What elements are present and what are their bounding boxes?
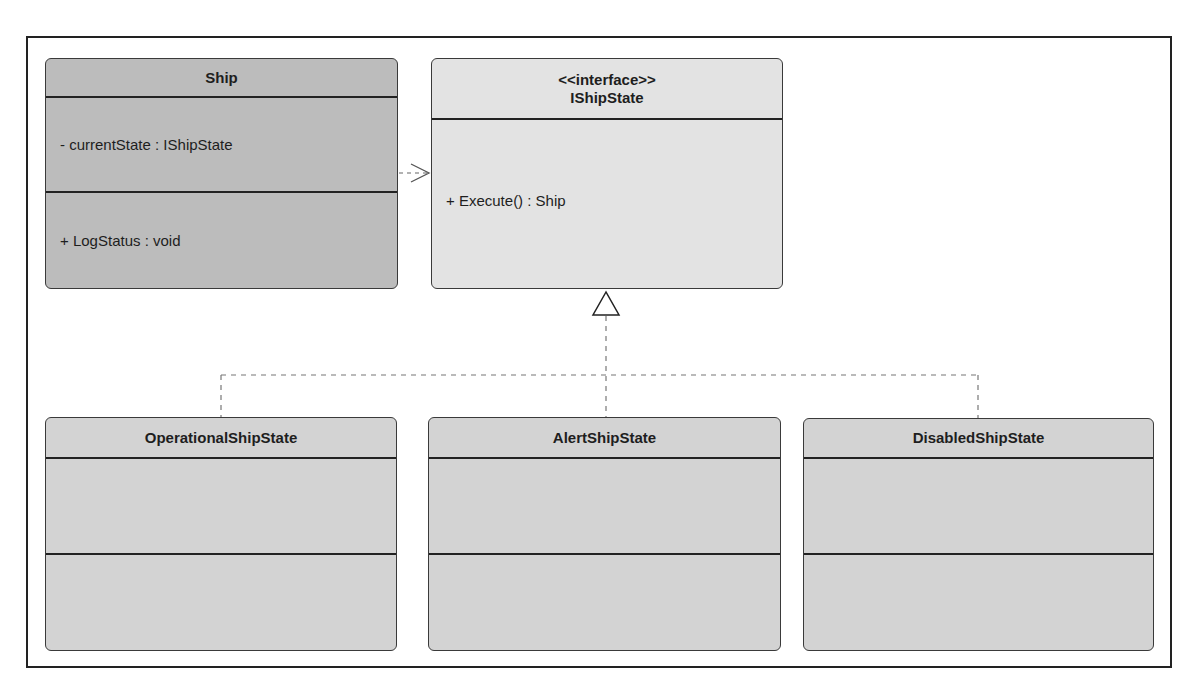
methods-section: + LogStatus : void (46, 193, 397, 287)
method: + LogStatus : void (60, 232, 181, 249)
class-header: Ship (46, 59, 397, 98)
class-name: Ship (205, 69, 238, 87)
methods-section (429, 555, 780, 649)
attribute: - currentState : IShipState (60, 136, 233, 153)
class-operational-ship-state[interactable]: OperationalShipState (45, 417, 397, 651)
class-header: OperationalShipState (46, 418, 396, 459)
class-name: OperationalShipState (145, 429, 298, 447)
method: + Execute() : Ship (446, 192, 566, 209)
class-header: AlertShipState (429, 418, 780, 459)
stereotype-label: <<interface>> (558, 71, 656, 89)
class-alert-ship-state[interactable]: AlertShipState (428, 417, 781, 651)
methods-section (46, 555, 396, 649)
class-name: AlertShipState (553, 429, 656, 447)
attributes-section (804, 459, 1153, 555)
methods-section: + Execute() : Ship (432, 120, 782, 286)
class-ship[interactable]: Ship - currentState : IShipState + LogSt… (45, 58, 398, 289)
class-name: IShipState (570, 89, 643, 107)
class-name: DisabledShipState (913, 429, 1045, 447)
interface-ishipstate[interactable]: <<interface>> IShipState + Execute() : S… (431, 58, 783, 289)
methods-section (804, 555, 1153, 649)
class-header: <<interface>> IShipState (432, 59, 782, 120)
attributes-section (429, 459, 780, 555)
attributes-section (46, 459, 396, 555)
class-disabled-ship-state[interactable]: DisabledShipState (803, 418, 1154, 651)
class-header: DisabledShipState (804, 419, 1153, 459)
attributes-section: - currentState : IShipState (46, 98, 397, 193)
